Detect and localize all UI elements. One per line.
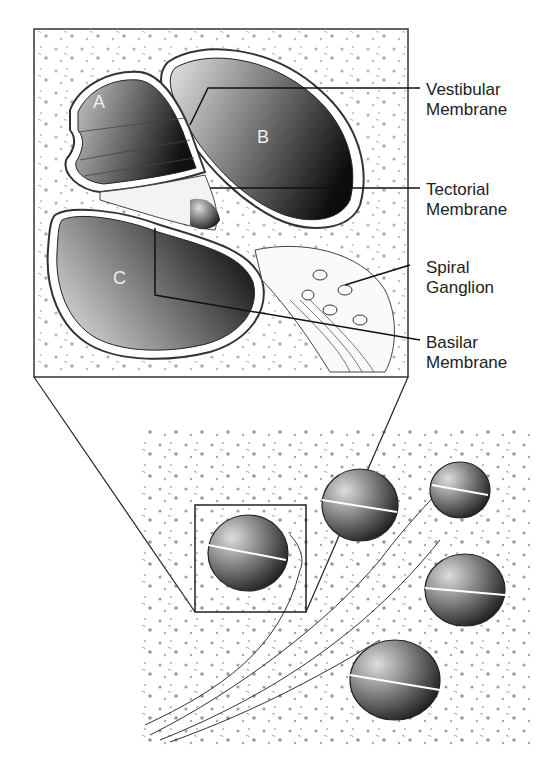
callout-line1: Basilar (426, 333, 507, 353)
chamber-label-a: A (93, 92, 105, 112)
callout-basilar-membrane: Basilar Membrane (426, 333, 507, 373)
callout-vestibular-membrane: Vestibular Membrane (426, 80, 507, 120)
callout-line2: Membrane (426, 353, 507, 373)
callout-line2: Membrane (426, 100, 507, 120)
callout-line2: Membrane (426, 200, 507, 220)
callout-line1: Spiral (426, 258, 494, 278)
chamber-label-b: B (257, 127, 269, 147)
chamber-label-c: C (113, 268, 126, 288)
callout-line2: Ganglion (426, 278, 494, 298)
callout-line1: Vestibular (426, 80, 507, 100)
callout-tectorial-membrane: Tectorial Membrane (426, 180, 507, 220)
callout-line1: Tectorial (426, 180, 507, 200)
callout-spiral-ganglion: Spiral Ganglion (426, 258, 494, 298)
